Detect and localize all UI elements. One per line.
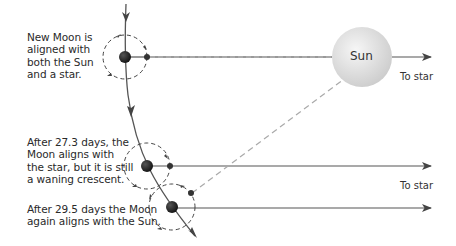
position-new-moon	[103, 34, 332, 79]
caption-line: a waning crescent.	[27, 173, 133, 185]
sun-label: Sun	[350, 49, 373, 63]
to-star-label: To star	[400, 180, 433, 191]
caption-line: the star, but it is still	[27, 161, 133, 173]
caption-synodic: After 29.5 days the Moon again aligns wi…	[27, 203, 161, 228]
moon-icon	[188, 190, 194, 196]
caption-line: aligned with	[27, 43, 94, 55]
caption-line: After 29.5 days the Moon	[27, 203, 161, 215]
caption-line: and a star.	[27, 68, 94, 80]
position-sidereal	[124, 143, 431, 189]
position-synodic	[149, 184, 431, 230]
caption-sidereal: After 27.3 days, the Moon aligns with th…	[27, 136, 133, 186]
sun-alignment-line	[192, 79, 344, 193]
caption-line: Moon aligns with	[27, 148, 133, 160]
earth-icon	[119, 51, 131, 63]
to-star-label: To star	[400, 71, 433, 82]
caption-line: both the Sun	[27, 56, 94, 68]
caption-line: After 27.3 days, the	[27, 136, 133, 148]
caption-line: New Moon is	[27, 31, 94, 43]
moon-icon	[144, 54, 150, 60]
orbit-arrow-icon	[127, 105, 135, 117]
caption-line: again aligns with the Sun.	[27, 215, 161, 227]
caption-new-moon: New Moon is aligned with both the Sun an…	[27, 31, 94, 81]
earth-icon	[141, 160, 153, 172]
earth-icon	[166, 201, 178, 213]
moon-icon	[167, 163, 173, 169]
